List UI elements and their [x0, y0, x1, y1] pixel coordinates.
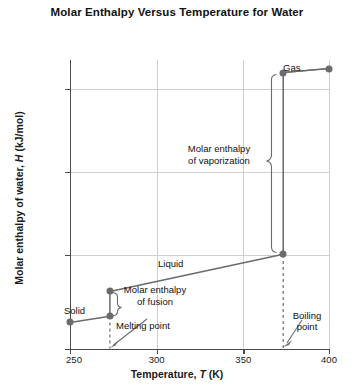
annotation-boiling-line2: point	[290, 321, 324, 332]
data-point-gas-end	[326, 65, 333, 72]
x-axis-title-prefix: Temperature,	[131, 368, 200, 380]
annotation-boiling-point: Boiling point	[290, 310, 324, 332]
y-axis-title-prefix: Molar enthalpy of water,	[13, 162, 25, 285]
data-point-liquid-melt	[106, 288, 113, 295]
y-axis-title: Molar enthalpy of water, H (kJ/mol)	[13, 83, 25, 313]
phase-label-gas: Gas	[283, 62, 300, 74]
annotation-molar-enthalpy-of-vaporization: Molar enthalpy of vaporization	[175, 143, 263, 166]
x-axis-title: Temperature, T (K)	[0, 368, 354, 380]
phase-label-solid: Solid	[64, 305, 85, 317]
y-axis-title-suffix: (kJ/mol)	[13, 111, 25, 154]
annotation-fusion-line1: Molar enthalpy	[116, 284, 194, 296]
annotation-vaporization-line2: of vaporization	[175, 155, 263, 167]
annotation-vaporization-line1: Molar enthalpy	[175, 143, 263, 155]
y-axis-title-symbol: H	[13, 155, 25, 163]
x-axis-title-suffix: (K)	[206, 368, 224, 380]
data-point-liquid-boil	[280, 251, 287, 258]
data-point-solid-melt	[106, 313, 113, 320]
phase-label-liquid: Liquid	[158, 258, 183, 270]
data-markers	[0, 0, 354, 391]
annotation-molar-enthalpy-of-fusion: Molar enthalpy of fusion	[116, 284, 194, 307]
annotation-melting-point: Melting point	[116, 320, 170, 332]
annotation-fusion-line2: of fusion	[116, 296, 194, 308]
annotation-boiling-line1: Boiling	[290, 310, 324, 321]
chart-figure: Molar Enthalpy Versus Temperature for Wa…	[0, 0, 354, 391]
data-point-solid-start	[67, 319, 74, 326]
